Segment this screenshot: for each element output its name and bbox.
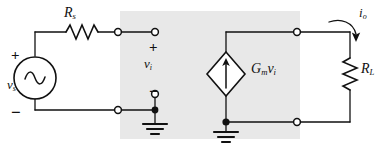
circuit-diagram-figure: Rs vs vi Gmvi RL io + − + − xyxy=(0,0,384,156)
load-resistor-label: RL xyxy=(361,62,374,76)
source-voltage-label: vs xyxy=(7,78,16,91)
input-plus-sign: + xyxy=(149,40,158,55)
load-resistor-rl xyxy=(343,58,357,90)
output-current-label: io xyxy=(359,6,367,19)
source-plus-sign: + xyxy=(11,48,20,63)
output-terminal-top xyxy=(294,29,301,36)
source-minus-sign: − xyxy=(11,104,21,121)
source-resistor-label: Rs xyxy=(64,6,76,20)
circuit-schematic-canvas xyxy=(0,0,384,156)
dependent-source-label: Gmvi xyxy=(251,62,276,76)
input-terminal-left-top xyxy=(115,29,122,36)
output-terminal-bottom xyxy=(294,119,301,126)
source-resistor-rs xyxy=(66,25,98,39)
input-terminal-left-bottom xyxy=(115,107,122,114)
input-terminal-right-top xyxy=(152,29,159,36)
input-minus-sign: − xyxy=(149,83,159,100)
input-voltage-label: vi xyxy=(144,57,152,70)
